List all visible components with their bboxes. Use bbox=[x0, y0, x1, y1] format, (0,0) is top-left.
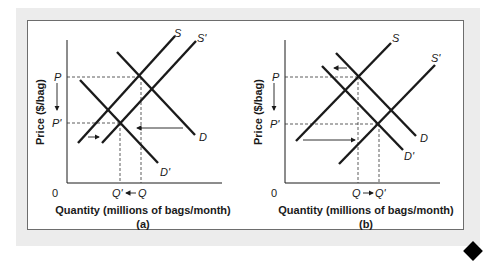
label-d: D bbox=[420, 132, 428, 144]
supply-curve-s bbox=[78, 36, 175, 143]
x-axis-title: Quantity (millions of bags/month) bbox=[278, 204, 454, 216]
y-axis-title: Price ($/bag) bbox=[252, 79, 264, 145]
caption-a: (a) bbox=[136, 218, 150, 230]
caption-b: (b) bbox=[359, 218, 373, 230]
label-d-prime: D' bbox=[160, 166, 171, 178]
label-p: P bbox=[54, 71, 62, 83]
label-d: D bbox=[199, 131, 207, 143]
label-p-prime: P' bbox=[52, 117, 62, 129]
label-origin: 0 bbox=[271, 187, 277, 199]
label-p: P bbox=[272, 71, 280, 83]
label-q-prime: Q' bbox=[112, 187, 124, 199]
demand-curve-d-prime bbox=[80, 80, 158, 163]
label-origin: 0 bbox=[52, 187, 58, 199]
label-q: Q bbox=[352, 187, 361, 199]
label-p-prime: P' bbox=[270, 118, 280, 130]
demand-curve-d-prime bbox=[322, 66, 403, 150]
label-s-prime: S' bbox=[431, 52, 441, 64]
label-q: Q bbox=[138, 187, 147, 199]
label-s-prime: S' bbox=[197, 32, 207, 44]
label-s: S bbox=[174, 27, 182, 39]
x-axis-title: Quantity (millions of bags/month) bbox=[55, 204, 231, 216]
demand-curve-d bbox=[117, 52, 195, 135]
panel-a: S S' D D' P P' 0 Q' Q Price ($/bag) Quan… bbox=[34, 27, 231, 230]
label-s: S bbox=[392, 32, 400, 44]
y-axis-title: Price ($/bag) bbox=[34, 79, 46, 145]
supply-curve-s-prime bbox=[339, 65, 435, 164]
panel-b: S S' D D' P P' 0 Q Q' Price ($/bag) Quan… bbox=[252, 32, 454, 230]
label-q-prime: Q' bbox=[375, 187, 387, 199]
label-d-prime: D' bbox=[404, 150, 415, 162]
